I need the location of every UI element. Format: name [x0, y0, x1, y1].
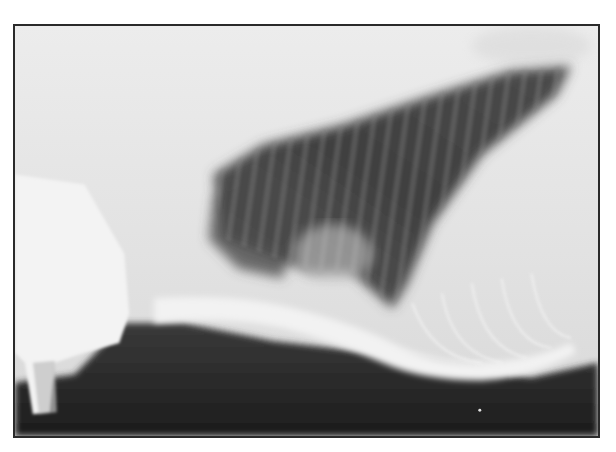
radiograph-image	[15, 26, 598, 436]
radiograph-frame: Lateral thoracic radiograph	[13, 24, 600, 438]
